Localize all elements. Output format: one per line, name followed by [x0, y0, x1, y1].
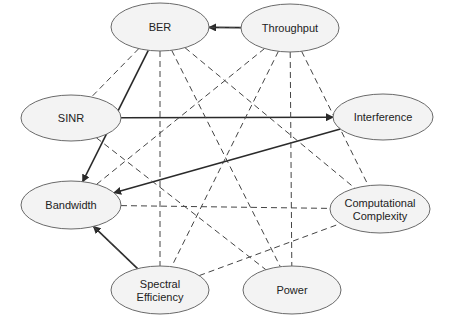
node-label: Bandwidth — [45, 199, 96, 211]
node-label: Throughput — [262, 22, 318, 34]
node-throughput: Throughput — [241, 4, 339, 52]
node-label: BER — [149, 21, 172, 33]
node-ber: BER — [111, 3, 209, 51]
node-label: Power — [276, 284, 308, 296]
node-label: Interference — [354, 111, 413, 123]
nodes-layer: BERThroughputSINRInterferenceBandwidthCo… — [21, 3, 433, 314]
edge-sinr-interference — [121, 117, 333, 118]
edges-layer — [83, 27, 369, 275]
node-computational: ComputationalComplexity — [330, 185, 430, 233]
edge-spectral-computational — [199, 224, 340, 276]
node-label: Efficiency — [137, 291, 184, 303]
edge-throughput-spectral — [172, 51, 279, 266]
edge-throughput-power — [290, 52, 292, 266]
node-bandwidth: Bandwidth — [21, 181, 121, 229]
node-label: Complexity — [353, 210, 408, 222]
node-sinr: SINR — [21, 95, 121, 141]
node-interference: Interference — [333, 94, 433, 140]
node-label: Spectral — [140, 278, 180, 290]
edge-ber-sinr — [92, 49, 139, 97]
edge-bandwidth-computational — [121, 206, 330, 209]
node-spectral: SpectralEfficiency — [111, 266, 209, 314]
node-power: Power — [243, 266, 341, 314]
node-label: Computational — [345, 197, 416, 209]
relationship-diagram: BERThroughputSINRInterferenceBandwidthCo… — [0, 0, 451, 323]
node-label: SINR — [58, 112, 84, 124]
